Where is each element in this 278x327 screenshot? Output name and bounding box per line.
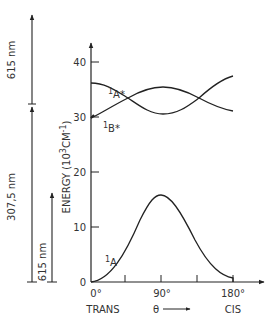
curve-label-1Astar: 1A* (108, 87, 125, 100)
x-tick-label-90: 90° (153, 288, 171, 299)
wavelength-arrows: 307,5 nm 615 nm 615 nm (6, 15, 57, 282)
curve-1A (91, 195, 233, 282)
energy-diagram: 307,5 nm 615 nm 615 nm ENERGY (103CM-1) … (0, 0, 278, 327)
y-tick-label-10: 10 (73, 222, 86, 233)
y-axis-label: ENERGY (103CM-1) (59, 120, 72, 213)
y-tick-label-30: 30 (73, 112, 86, 123)
arrow-307nm-label: 307,5 nm (6, 173, 17, 221)
y-tick-label-40: 40 (73, 57, 86, 68)
curve-label-1A: 1A (105, 255, 117, 268)
curve-label-1Bstar: 1B* (103, 121, 120, 134)
arrow-615nm-top-label: 615 nm (6, 41, 17, 79)
y-tick-label-20: 20 (73, 167, 86, 178)
arrow-615nm-short-label: 615 nm (37, 243, 48, 281)
axes (91, 43, 264, 282)
y-tick-label-0: 0 (80, 277, 86, 288)
cis-label: CIS (225, 304, 241, 315)
theta-label: θ (153, 304, 159, 315)
trans-label: TRANS (85, 304, 119, 315)
x-tick-label-0: 0° (90, 288, 101, 299)
x-tick-label-180: 180° (221, 288, 245, 299)
